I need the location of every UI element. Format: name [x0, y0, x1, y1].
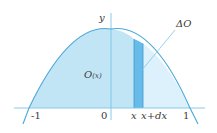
region-right-fill	[143, 44, 190, 108]
delta-o-label: ΔO	[176, 19, 191, 29]
x-tick-neg1: -1	[31, 111, 41, 121]
parabola-area-diagram: y ΔO O(x) -1 0 1 x x+dx	[0, 0, 217, 133]
y-axis-label: y	[99, 13, 105, 23]
strip-left-label: x	[131, 111, 137, 121]
x-tick-1: 1	[183, 111, 189, 121]
region-label-arg: (x)	[92, 72, 101, 80]
region-label: O(x)	[84, 70, 102, 80]
region-left-fill	[29, 28, 134, 108]
region-label-main: O	[84, 69, 92, 80]
x-tick-0: 0	[101, 111, 107, 121]
strip-fill	[134, 39, 143, 108]
strip-right-label: x+dx	[141, 111, 167, 121]
